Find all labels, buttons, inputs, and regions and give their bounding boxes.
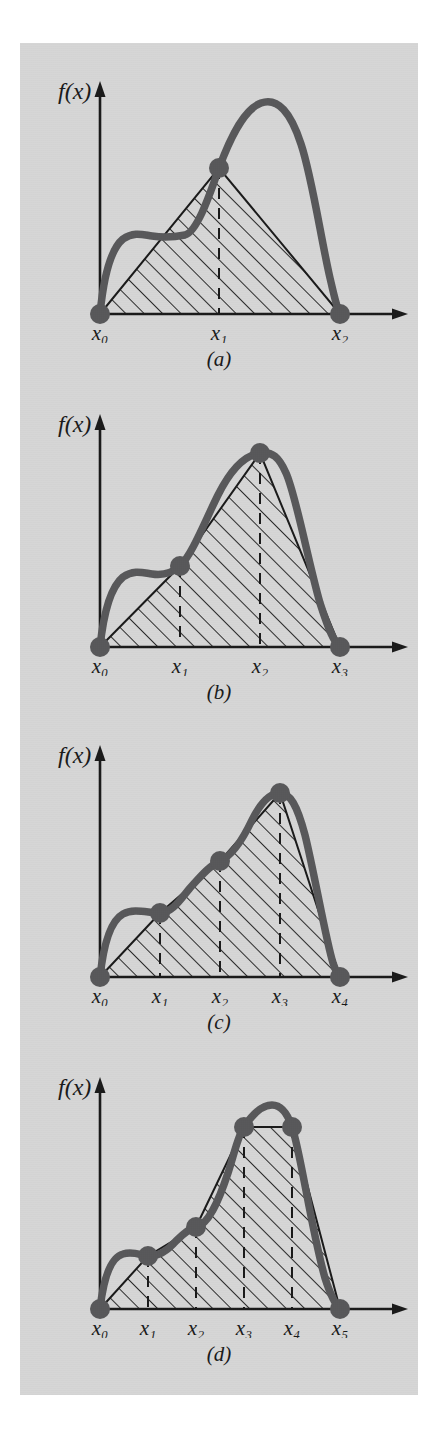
tick-label-x1-c: x₁ xyxy=(151,984,169,1006)
caption-c: (c) xyxy=(20,1010,418,1035)
tick-label-x4-d: x₄ xyxy=(283,1316,301,1338)
y-axis-label-d: f(x) xyxy=(58,1074,91,1100)
caption-d: (d) xyxy=(20,1342,418,1367)
tick-label-x4-c: x₄ xyxy=(331,984,349,1006)
tick-label-x0-d: x₀ xyxy=(91,1316,109,1338)
tick-label-x2-a: x₂ xyxy=(331,321,349,343)
y-axis-arrowhead-b xyxy=(95,414,106,430)
tick-label-x2-b: x₂ xyxy=(251,654,269,676)
node-x1-d xyxy=(138,1246,158,1266)
tick-label-x0-c: x₀ xyxy=(91,984,109,1006)
subfigure-c: f(x) x₀ x₁ x₂ x₃ x₄ (c) xyxy=(20,713,418,1043)
trapezoid-region-d xyxy=(100,1127,340,1309)
node-x2-d xyxy=(186,1217,206,1237)
subfigure-a: f(x) x₀ x₁ x₂ (a) xyxy=(20,43,418,381)
node-x3-d xyxy=(234,1117,254,1137)
caption-a: (a) xyxy=(20,347,418,372)
plot-b: f(x) x₀ x₁ x₂ x₃ xyxy=(20,381,418,676)
node-x1-a xyxy=(209,158,229,178)
plot-c: f(x) x₀ x₁ x₂ x₃ x₄ xyxy=(20,713,418,1006)
y-axis-label-c: f(x) xyxy=(58,742,91,768)
tick-label-x5-d: x₅ xyxy=(331,1316,349,1338)
tick-label-x3-c: x₃ xyxy=(271,984,289,1006)
plot-a: f(x) x₀ x₁ x₂ xyxy=(20,43,418,343)
tick-label-x1-b: x₁ xyxy=(171,654,189,676)
caption-b: (b) xyxy=(20,680,418,705)
y-axis-label-a: f(x) xyxy=(58,78,91,104)
node-x1-b xyxy=(170,556,190,576)
y-axis-arrowhead-a xyxy=(95,81,106,97)
node-x2-b xyxy=(250,443,270,463)
tick-label-x3-b: x₃ xyxy=(331,654,349,676)
tick-label-x1-a: x₁ xyxy=(210,321,228,343)
x-axis-arrowhead-c xyxy=(392,972,408,983)
y-axis-arrowhead-d xyxy=(95,1077,106,1093)
node-x1-c xyxy=(150,903,170,923)
tick-label-x0-a: x₀ xyxy=(91,321,109,343)
tick-label-x0-b: x₀ xyxy=(91,654,109,676)
plot-d: f(x) x₀ x₁ x₂ x₃ x₄ x₅ xyxy=(20,1043,418,1338)
node-x4-d xyxy=(282,1117,302,1137)
subfigure-b: f(x) x₀ x₁ x₂ x₃ (b) xyxy=(20,381,418,713)
node-x2-c xyxy=(210,851,230,871)
x-axis-arrowhead-b xyxy=(392,642,408,653)
x-axis-arrowhead-a xyxy=(392,309,408,320)
tick-label-x3-d: x₃ xyxy=(235,1316,253,1338)
tick-label-x2-c: x₂ xyxy=(211,984,229,1006)
figure-background-panel: f(x) x₀ x₁ x₂ (a) xyxy=(20,43,418,1395)
subfigure-d: f(x) x₀ x₁ x₂ x₃ x₄ x₅ (d) xyxy=(20,1043,418,1373)
y-axis-arrowhead-c xyxy=(95,745,106,761)
tick-label-x1-d: x₁ xyxy=(139,1316,157,1338)
tick-label-x2-d: x₂ xyxy=(187,1316,205,1338)
y-axis-label-b: f(x) xyxy=(58,411,91,437)
node-x3-c xyxy=(270,783,290,803)
x-axis-arrowhead-d xyxy=(392,1304,408,1315)
